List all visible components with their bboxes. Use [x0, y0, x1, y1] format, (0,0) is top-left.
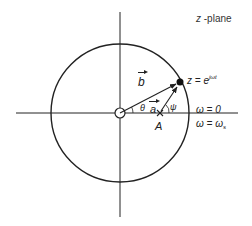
point-z [177, 79, 184, 86]
vector-b-arrow-icon [138, 72, 146, 73]
z-plane-label: z -plane [196, 14, 232, 24]
z-equation-base: z = e [187, 75, 209, 86]
theta-label: θ [140, 104, 145, 113]
omega-s-subscript: s [223, 124, 226, 130]
vector-a-label: a [150, 104, 156, 115]
theta-arc [132, 107, 133, 113]
point-A-label: A [155, 121, 162, 132]
omega-zero-label: ω = 0 [196, 105, 221, 115]
vector-b-label: b [138, 76, 145, 88]
z-equation-exponent: jωt [209, 74, 217, 80]
z-plane-suffix: -plane [201, 13, 232, 24]
omega-s-base: ω = ω [196, 118, 223, 129]
omega-s-label: ω = ωs [196, 119, 226, 130]
psi-label: ψ [170, 103, 177, 112]
psi-arc [166, 105, 169, 113]
vector-a-arrow-icon [149, 101, 158, 102]
vector-b [120, 84, 176, 113]
z-equation-label: z = ejωt [187, 74, 217, 86]
